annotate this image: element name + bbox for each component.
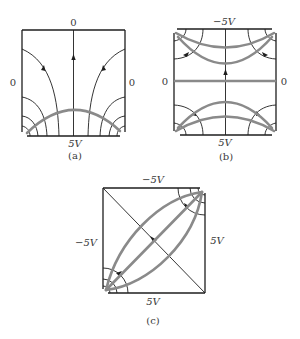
panel-c-bottom-label: 5V: [146, 296, 161, 307]
panel-b: −5V 0 0 5V (b): [162, 16, 287, 162]
panel-b-equipotential: [176, 33, 274, 48]
panel-b-equipotential: [176, 117, 274, 132]
panel-b-right-label: 0: [281, 76, 287, 87]
panel-a: 0 0 0 5V (a): [10, 17, 135, 161]
panel-a-left-label: 0: [10, 77, 16, 88]
panel-b-bottom-label: 5V: [218, 137, 233, 148]
panel-b-arrow-icon: [183, 52, 189, 57]
panel-c-caption: (c): [146, 315, 160, 326]
panel-b-arrow-up-icon: [223, 69, 227, 75]
panel-a-field-line: [88, 49, 125, 136]
panel-b-top-label: −5V: [213, 16, 237, 27]
panel-c: −5V −5V 5V 5V (c): [75, 174, 226, 326]
panel-c-top-label: −5V: [142, 174, 166, 185]
figure: 0 0 0 5V (a) −5V 0: [0, 0, 300, 339]
panel-b-caption: (b): [219, 151, 233, 162]
panel-c-right-label: 5V: [210, 235, 225, 246]
panel-a-caption: (a): [68, 150, 82, 161]
panel-a-arrow-up-icon: [71, 54, 75, 60]
panel-a-right-label: 0: [129, 77, 135, 88]
panel-c-left-label: −5V: [75, 237, 99, 248]
panel-b-left-label: 0: [162, 76, 168, 87]
panel-a-bottom-label: 5V: [68, 138, 83, 149]
panel-b-arrow-icon: [262, 52, 268, 57]
panel-a-top-label: 0: [70, 17, 76, 28]
panel-a-arrow-icon: [102, 65, 107, 71]
panel-a-arrow-icon: [41, 65, 46, 71]
